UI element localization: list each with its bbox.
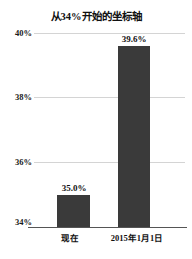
y-tick-label-34: 34% xyxy=(2,218,32,227)
y-tick-label-40: 40% xyxy=(2,29,32,38)
x-axis-line xyxy=(28,227,187,228)
gridline-36 xyxy=(34,162,185,163)
bar-chart: 从34%开始的坐标轴 40% 38% 36% 34% 35.0% 39.6% 现… xyxy=(0,0,192,259)
bar-2015-01-01 xyxy=(118,46,150,227)
x-label-now: 现在 xyxy=(34,233,106,244)
chart-title: 从34%开始的坐标轴 xyxy=(0,11,192,23)
bar-value-now: 35.0% xyxy=(39,183,109,193)
y-tick-label-38: 38% xyxy=(2,93,32,102)
y-tick-label-36: 36% xyxy=(2,158,32,167)
gridline-38 xyxy=(34,97,185,98)
bar-value-2015-01-01: 39.6% xyxy=(99,34,169,44)
bar-now xyxy=(57,195,90,227)
x-label-2015-01-01: 2015年1月1日 xyxy=(98,233,176,244)
plot-area xyxy=(34,33,185,227)
